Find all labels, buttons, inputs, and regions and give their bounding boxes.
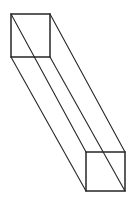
figure-canvas: Rectangular prism wireframe Line drawing… [0, 0, 138, 207]
far-square-face [86, 152, 125, 191]
edge-top-right [50, 14, 125, 152]
edge-top-left [11, 14, 86, 152]
edge-bottom-left [11, 57, 86, 191]
edge-bottom-right [50, 57, 125, 191]
rectangular-prism-wireframe: Rectangular prism wireframe Line drawing… [0, 0, 138, 207]
connecting-edge-group [11, 14, 125, 191]
